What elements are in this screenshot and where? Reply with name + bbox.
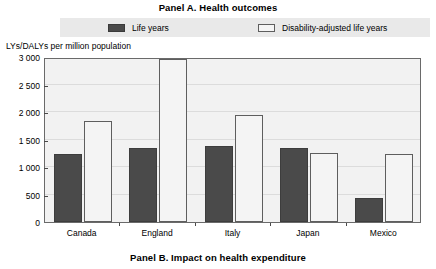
gridline <box>45 84 420 85</box>
panel-b-title: Panel B. Impact on health expenditure <box>0 252 436 263</box>
bar-canada-life-years <box>54 154 82 222</box>
y-tick-label: 3 000 <box>4 53 40 63</box>
plot-area <box>44 58 421 223</box>
y-tick-label: 0 <box>4 218 40 228</box>
x-axis-tick-labels: CanadaEnglandItalyJapanMexico <box>44 228 421 242</box>
y-tick-label: 2 000 <box>4 108 40 118</box>
bar-england-disability-adjusted-life-years <box>159 59 187 222</box>
y-tick-mark <box>44 168 48 169</box>
x-tick-mark <box>195 223 196 226</box>
x-tick-label-mexico: Mexico <box>370 228 397 238</box>
y-tick-label: 500 <box>4 191 40 201</box>
bar-italy-life-years <box>205 146 233 222</box>
legend-swatch-filled-square-icon <box>108 24 125 32</box>
y-tick-mark <box>44 141 48 142</box>
legend-label-life-years: Life years <box>132 23 169 33</box>
panel-a-title: Panel A. Health outcomes <box>0 2 436 13</box>
y-axis-title: LYs/DALYs per million population <box>6 41 131 51</box>
x-tick-label-england: England <box>141 228 172 238</box>
bar-mexico-disability-adjusted-life-years <box>385 154 413 222</box>
legend-item-disability-adjusted-life-years: Disability-adjusted life years <box>258 18 387 37</box>
gridline <box>45 111 420 112</box>
y-tick-label: 2 500 <box>4 81 40 91</box>
bar-mexico-life-years <box>355 198 383 222</box>
x-tick-label-italy: Italy <box>225 228 241 238</box>
legend-item-life-years: Life years <box>108 18 169 37</box>
x-tick-label-japan: Japan <box>296 228 319 238</box>
x-tick-mark <box>346 223 347 226</box>
legend-label-disability-adjusted-life-years: Disability-adjusted life years <box>282 23 387 33</box>
y-tick-label: 1 000 <box>4 163 40 173</box>
y-tick-label: 1 500 <box>4 136 40 146</box>
bar-japan-disability-adjusted-life-years <box>310 153 338 222</box>
x-tick-label-canada: Canada <box>67 228 97 238</box>
y-tick-mark <box>44 196 48 197</box>
y-tick-mark <box>44 113 48 114</box>
y-axis-tick-labels: 05001 0001 5002 0002 5003 000 <box>0 58 40 223</box>
bar-canada-disability-adjusted-life-years <box>84 121 112 222</box>
chart-legend: Life years Disability-adjusted life year… <box>60 18 430 37</box>
legend-swatch-outlined-square-icon <box>258 24 275 32</box>
x-tick-mark <box>119 223 120 226</box>
x-tick-mark <box>270 223 271 226</box>
bar-italy-disability-adjusted-life-years <box>235 115 263 222</box>
y-tick-mark <box>44 86 48 87</box>
bar-japan-life-years <box>280 148 308 222</box>
bar-england-life-years <box>129 148 157 222</box>
